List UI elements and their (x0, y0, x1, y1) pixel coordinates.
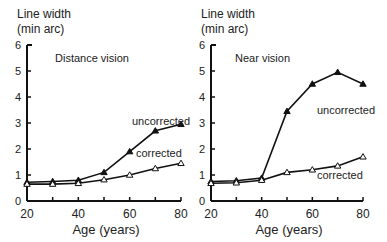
panel-title: Distance vision (55, 52, 129, 64)
series-label-uncorrected: uncorrected (132, 115, 190, 127)
panel-title: Near vision (235, 52, 290, 64)
y-tick-label: 0 (199, 195, 205, 207)
x-tick-label: 80 (356, 207, 370, 221)
data-point-marker (360, 154, 366, 159)
y-tick-label: 5 (15, 65, 21, 77)
x-tick-label: 40 (72, 207, 86, 221)
y-tick-label: 5 (199, 65, 205, 77)
x-tick-label: 20 (20, 207, 34, 221)
y-tick-label: 1 (15, 169, 21, 181)
x-tick-label: 20 (204, 207, 218, 221)
series-label-corrected: corrected (136, 147, 182, 159)
y-tick-label: 3 (199, 117, 205, 129)
y-axis-label: Line width (201, 7, 255, 21)
y-tick-label: 4 (199, 91, 205, 103)
y-tick-label: 3 (15, 117, 21, 129)
series-label-corrected: corrected (317, 169, 363, 181)
y-tick-label: 2 (199, 143, 205, 155)
y-tick-label: 1 (199, 169, 205, 181)
data-point-marker (334, 69, 340, 74)
x-tick-label: 60 (123, 207, 137, 221)
data-point-marker (178, 160, 184, 165)
x-tick-label: 60 (306, 207, 320, 221)
x-tick-label: 80 (174, 207, 188, 221)
x-tick-label: 40 (255, 207, 269, 221)
y-tick-label: 2 (15, 143, 21, 155)
chart-panel-near: Line width(min arc)012345620406080Age (y… (199, 7, 375, 237)
y-axis-label-unit: (min arc) (17, 22, 64, 36)
y-tick-label: 6 (199, 39, 205, 51)
y-tick-label: 6 (15, 39, 21, 51)
series-label-uncorrected: uncorrected (317, 104, 375, 116)
y-tick-label: 0 (15, 195, 21, 207)
chart-canvas: Line width(min arc)012345620406080Age (y… (0, 0, 387, 242)
y-axis-label-unit: (min arc) (201, 22, 248, 36)
chart-panel-distance: Line width(min arc)012345620406080Age (y… (15, 7, 190, 237)
y-tick-label: 4 (15, 91, 21, 103)
x-axis-label: Age (years) (255, 222, 322, 237)
x-axis-label: Age (years) (72, 222, 139, 237)
y-axis-label: Line width (17, 7, 71, 21)
